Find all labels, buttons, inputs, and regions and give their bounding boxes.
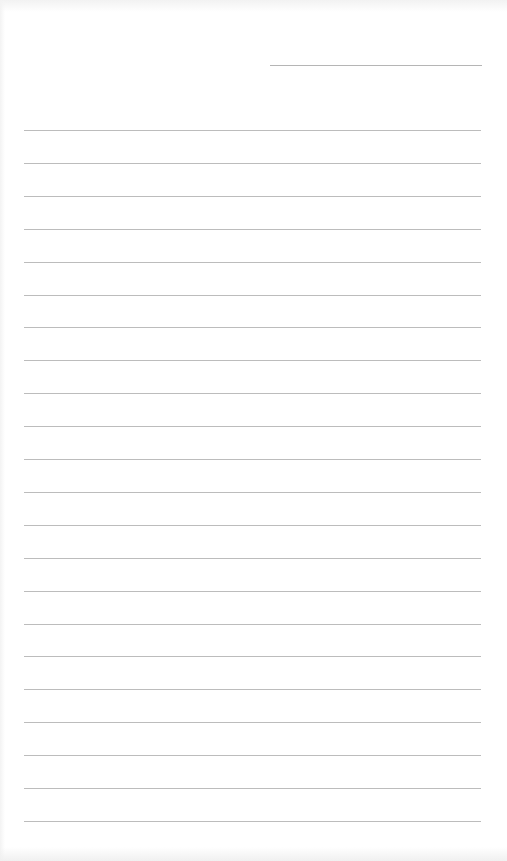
date-line [270,65,482,66]
ruled-line [24,722,481,723]
scan-edge-top [0,0,507,12]
ruled-line [24,755,481,756]
scan-edge-left [0,0,5,861]
ruled-line [24,393,481,394]
ruled-line [24,360,481,361]
ruled-line [24,788,481,789]
ruled-line [24,492,481,493]
ruled-line [24,689,481,690]
ruled-line [24,624,481,625]
ruled-line [24,327,481,328]
scan-edge-bottom [0,847,507,861]
ruled-line [24,525,481,526]
ruled-line [24,163,481,164]
ruled-line [24,821,481,822]
ruled-line [24,295,481,296]
ruled-line [24,229,481,230]
ruled-line [24,459,481,460]
ruled-line [24,558,481,559]
ruled-line [24,196,481,197]
ruled-line [24,262,481,263]
ruled-line [24,130,481,131]
ruled-line [24,591,481,592]
ruled-line [24,656,481,657]
ruled-line [24,426,481,427]
